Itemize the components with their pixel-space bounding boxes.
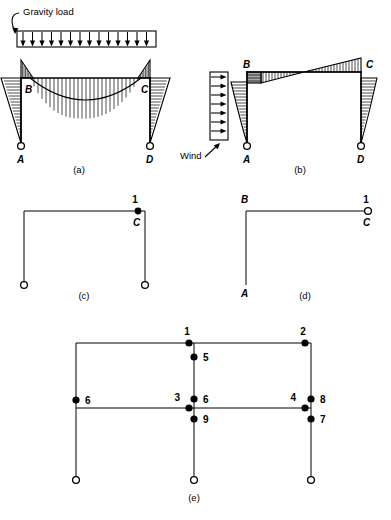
wind-load-label: Wind [180,150,202,161]
support-pin-A [18,143,25,150]
support-pin-e-left [73,477,80,484]
moment-diagram-column-CD [150,78,170,143]
gravity-load-arrows [20,32,149,47]
joint-label-B-b: B [243,59,250,70]
moment-diagram-column-AB [1,78,21,143]
wind-load-arrows [211,74,227,133]
dof-node-6-center-e [190,395,197,402]
joint-label-B-a: B [25,84,32,95]
dof-number-9-e: 9 [203,414,209,425]
dof-number-6-left-e: 6 [85,395,91,406]
support-label-A-a: A [16,154,24,165]
support-label-A-b: A [242,154,250,165]
dof-number-5-e: 5 [203,352,209,363]
panel-b: Wind [180,58,377,175]
joint-label-B-d: B [241,194,248,205]
panel-a: Gravity load [1,6,170,175]
dof-node-7-e [307,415,314,422]
support-label-D-a: D [146,154,153,165]
panel-c: 1 C (c) [21,194,149,301]
support-pin-c-right [142,282,149,289]
moment-diagram-beam-BC [30,78,141,119]
dof-number-4-e: 4 [290,392,296,403]
dof-number-2-e: 2 [300,326,306,337]
support-pin-A-b [244,143,251,150]
dof-node-2-e [301,339,308,346]
gravity-load-box [17,31,156,47]
dof-number-8-e: 8 [320,394,326,405]
dof-node-9-e [190,415,197,422]
support-pin-D [147,143,154,150]
wind-load-box [210,72,228,140]
gravity-load-label: Gravity load [23,6,74,17]
moment-diagram-beam-BC-b [261,58,361,83]
dof-node-5-e [190,353,197,360]
joint-label-C-a: C [141,84,149,95]
figure-svg: Gravity load [0,0,391,520]
frame-b-structure [244,72,365,149]
dof-number-1-c: 1 [132,194,138,205]
moment-diagram-column-CD-b [361,78,377,143]
dof-node-3-e [185,404,192,411]
dof-number-6-center-e: 6 [203,394,209,405]
support-pin-D-b [358,143,365,150]
joint-label-C-d: C [363,217,371,228]
moment-peak-joint-B [21,60,33,78]
dof-number-3-e: 3 [174,392,180,403]
panel-caption-b: (b) [294,164,306,175]
joint-label-C-c: C [133,217,141,228]
support-label-D-b: D [357,154,364,165]
joint-label-C-b: C [366,59,374,70]
support-pin-e-center [191,477,198,484]
dof-number-1-e: 1 [184,326,190,337]
panel-caption-e: (e) [188,492,200,503]
dof-node-1-e [185,339,192,346]
hinge-node-1-d [365,208,372,215]
panel-caption-a: (a) [73,164,85,175]
panel-caption-d: (d) [299,290,311,301]
support-pin-c-left [21,282,28,289]
joint-label-A-d: A [240,288,248,299]
structural-frame-figure: Gravity load [0,0,391,520]
moment-diagram-column-AB-b [231,72,261,143]
moment-peak-joint-C [138,60,150,78]
dof-node-8-e [307,395,314,402]
panel-e: 1 2 5 6 3 6 9 4 8 7 (e) [72,326,326,503]
dof-node-4-e [301,404,308,411]
panel-d: 1 C B A (d) [240,194,371,301]
panel-caption-c: (c) [78,290,89,301]
dof-number-7-e: 7 [320,414,326,425]
support-pin-e-right [308,477,315,484]
dof-node-6-left-e [72,396,79,403]
dof-number-1-d: 1 [363,194,369,205]
dof-node-1-c [135,208,142,215]
